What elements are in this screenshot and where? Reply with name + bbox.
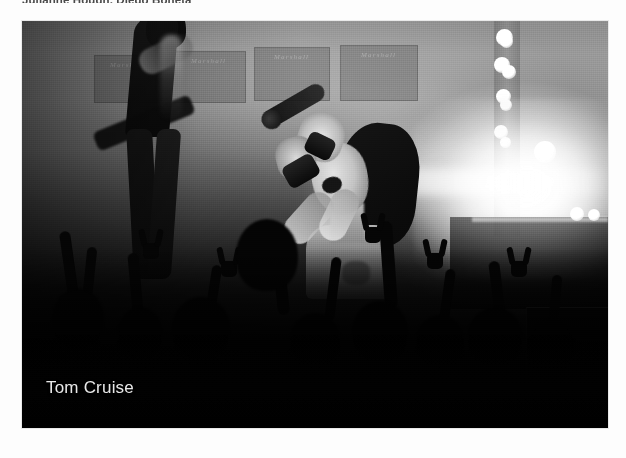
cast-credit-line: Julianne Hough, Diego Boneta xyxy=(22,0,192,3)
concert-photo: MarshallMarshallMarshallMarshall xyxy=(22,21,608,428)
crowd-mass-shadow xyxy=(22,248,608,428)
photo-caption: Tom Cruise xyxy=(46,378,134,398)
rock-horns-hand-icon xyxy=(362,213,384,243)
crowd-foreground xyxy=(22,21,608,428)
